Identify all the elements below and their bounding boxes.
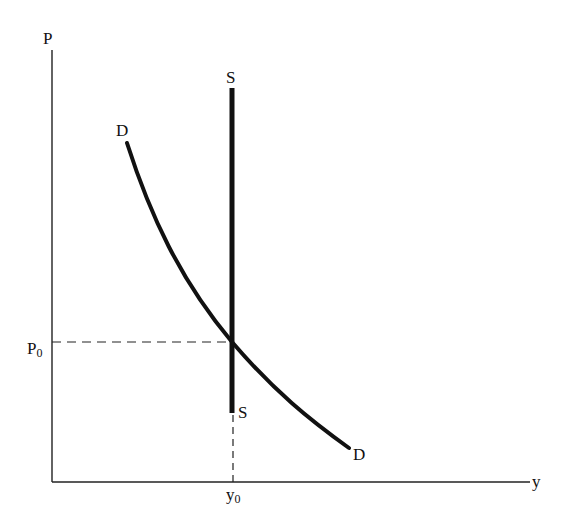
equilibrium-price-label: P0 (27, 339, 42, 360)
equilibrium-price-subscript: 0 (36, 346, 42, 360)
supply-label-top: S (226, 68, 235, 87)
x-axis-label: y (532, 472, 541, 491)
equilibrium-quantity-subscript: 0 (235, 492, 241, 506)
supply-label-bottom: S (238, 403, 247, 422)
demand-label-end: D (353, 445, 365, 464)
equilibrium-price-main: P (27, 339, 36, 358)
y-axis-label: P (43, 29, 52, 48)
equilibrium-quantity-label: y0 (226, 485, 241, 506)
supply-demand-diagram: P y S S D D P0 y0 (0, 0, 569, 529)
demand-label-start: D (116, 121, 128, 140)
